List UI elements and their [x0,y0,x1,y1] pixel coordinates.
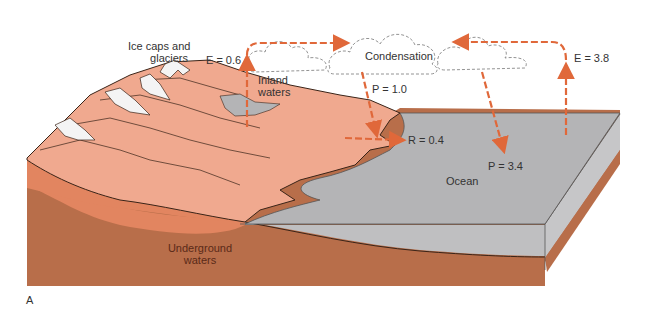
label-condensation: Condensation [365,50,433,62]
label-underground-waters: Underground waters [160,242,240,266]
diagram-canvas [0,0,662,310]
panel-label: A [26,294,33,306]
label-precipitation-ocean: P = 3.4 [488,160,523,172]
water-cycle-diagram: Ice caps and glaciers E = 0.6 Inland wat… [0,0,662,310]
label-evaporation-ocean: E = 3.8 [574,52,609,64]
label-underground-line1: Underground [160,242,240,254]
label-underground-line2: waters [160,254,240,266]
label-runoff: R = 0.4 [408,134,444,146]
label-inland-line2: waters [258,86,290,98]
label-inland-waters: Inland waters [258,74,290,98]
label-evaporation-land: E = 0.6 [206,54,241,66]
label-ice-caps: Ice caps and glaciers [128,40,188,64]
label-ocean: Ocean [446,175,478,187]
label-ice-caps-line2: glaciers [128,52,188,64]
label-inland-line1: Inland [258,74,290,86]
label-ice-caps-line1: Ice caps and [128,40,188,52]
label-precipitation-land: P = 1.0 [372,83,407,95]
